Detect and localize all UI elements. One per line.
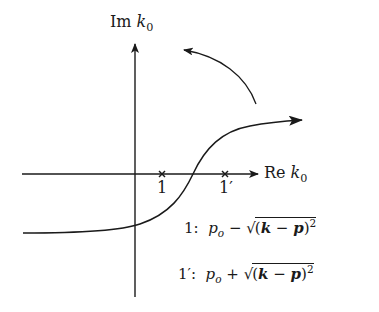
pole-1-label: 1 — [157, 178, 167, 197]
legend-row-2: 1′: po + √(k − p)2 — [178, 263, 314, 283]
sqrt-body: (k − p)2 — [255, 217, 316, 237]
p-sub: o — [215, 273, 221, 285]
legend-key: 1: — [184, 219, 199, 237]
re-sub: 0 — [300, 172, 307, 185]
p-var: p — [208, 219, 218, 237]
pole-1prime-label: 1′ — [219, 178, 233, 197]
p-sub: o — [218, 227, 224, 239]
rotation-arrow-icon — [184, 50, 256, 104]
legend-row-1: 1: po − √(k − p)2 — [184, 217, 316, 237]
re-axis-label: Re k0 — [264, 163, 307, 182]
p-vec: p — [293, 219, 304, 237]
re-prefix: Re — [264, 163, 291, 182]
re-var: k — [291, 163, 301, 182]
im-axis-label: Im k0 — [110, 12, 153, 31]
p-vec: p — [291, 265, 302, 283]
k-vec: k — [258, 265, 268, 283]
im-var: k — [137, 12, 147, 31]
im-prefix: Im — [110, 12, 137, 31]
minus: − — [276, 219, 289, 237]
p-var: p — [206, 265, 216, 283]
sqrt-body: (k − p)2 — [252, 263, 313, 283]
im-sub: 0 — [146, 21, 153, 34]
legend-key: 1′: — [178, 265, 196, 283]
exponent: 2 — [310, 217, 317, 229]
minus: − — [273, 265, 286, 283]
operator: − — [229, 219, 242, 237]
operator: + — [226, 265, 239, 283]
k-vec: k — [261, 219, 271, 237]
exponent: 2 — [307, 263, 314, 275]
